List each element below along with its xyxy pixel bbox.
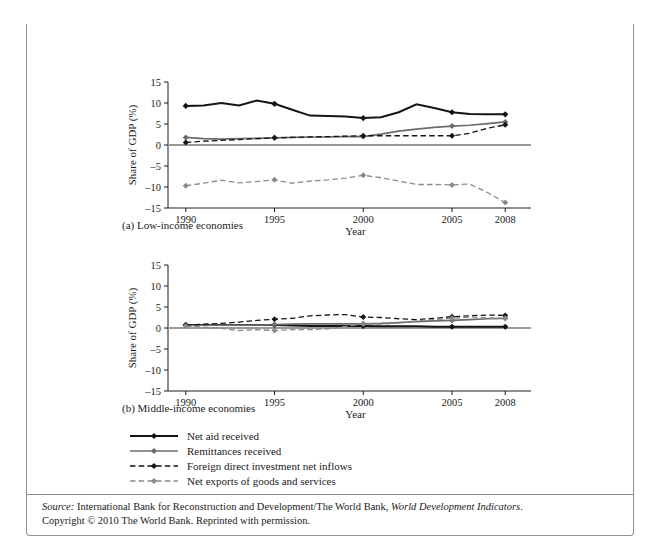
source-publication-title: World Development Indicators — [391, 501, 520, 512]
legend-marker — [151, 447, 157, 453]
legend-item: Net aid received — [128, 428, 458, 443]
legend-key-swatch — [128, 444, 180, 458]
legend-item-label: Net exports of goods and services — [187, 475, 336, 487]
legend-key-swatch — [128, 474, 180, 488]
source-divider — [27, 494, 633, 495]
legend: Net aid receivedRemittances receivedFore… — [128, 428, 458, 488]
legend-key-swatch — [128, 429, 180, 443]
source-note: Source: International Bank for Reconstru… — [42, 500, 632, 528]
legend-item: Net exports of goods and services — [128, 473, 458, 488]
legend-item-label: Foreign direct investment net inflows — [187, 460, 352, 472]
source-line1-end: . — [520, 501, 523, 512]
legend-marker — [151, 477, 157, 483]
legend-item-label: Net aid received — [187, 430, 259, 442]
legend-key-swatch — [128, 459, 180, 473]
legend-marker — [151, 462, 157, 468]
source-copyright: Copyright © 2010 The World Bank. Reprint… — [42, 515, 310, 526]
source-line1-rest: International Bank for Reconstruction an… — [74, 501, 391, 512]
legend-item-label: Remittances received — [187, 445, 281, 457]
source-label: Source: — [42, 501, 74, 512]
legend-item: Foreign direct investment net inflows — [128, 458, 458, 473]
legend-marker — [151, 432, 157, 438]
legend-item: Remittances received — [128, 443, 458, 458]
